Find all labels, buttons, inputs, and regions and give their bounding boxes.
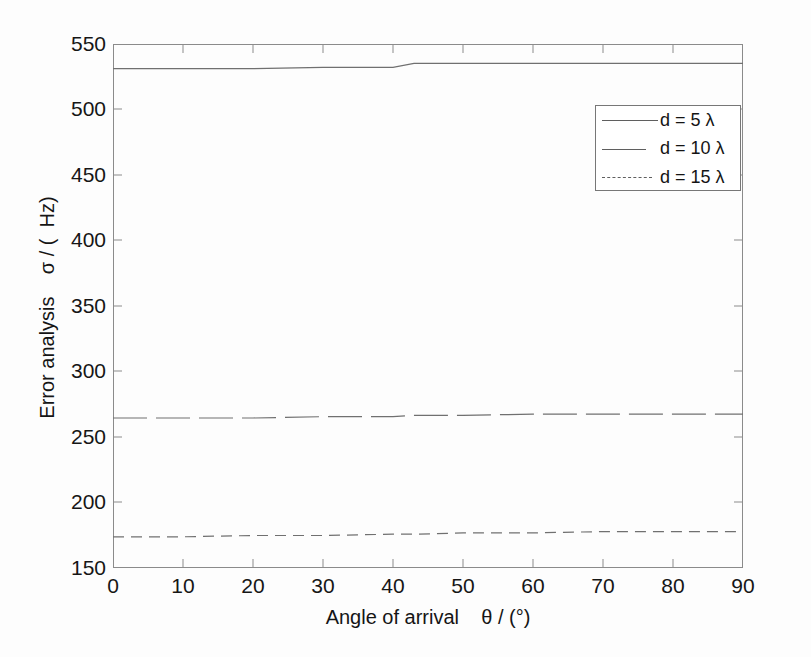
y-tick-550: 550 (40, 32, 106, 56)
x-tick-0: 0 (107, 574, 119, 598)
legend-item-0: d = 5 λ (596, 106, 740, 135)
legend-item-1: d = 10 λ (596, 135, 740, 164)
x-tick-30: 30 (311, 574, 334, 598)
chart-legend: d = 5 λ d = 10 λ d = 15 λ (595, 105, 741, 191)
legend-line-sample-solid-short (602, 142, 658, 156)
y-tick-150: 150 (40, 556, 106, 580)
legend-line-sample-dashed (602, 170, 658, 184)
legend-label-2: d = 15 λ (660, 167, 725, 188)
chart-figure: 550 500 450 400 350 300 250 200 150 0 10… (0, 0, 811, 657)
x-tick-10: 10 (171, 574, 194, 598)
x-tick-80: 80 (661, 574, 684, 598)
x-axis-title: Angle of arrival θ / (°) (113, 606, 743, 629)
x-tick-20: 20 (241, 574, 264, 598)
x-tick-70: 70 (591, 574, 614, 598)
x-tick-60: 60 (521, 574, 544, 598)
y-axis-title: Error analysis σ / ( Hz) (36, 93, 59, 523)
legend-item-2: d = 15 λ (596, 163, 740, 192)
x-tick-50: 50 (451, 574, 474, 598)
x-tick-90: 90 (731, 574, 754, 598)
legend-label-0: d = 5 λ (660, 110, 715, 131)
x-tick-40: 40 (381, 574, 404, 598)
legend-line-sample-solid (602, 113, 658, 127)
legend-label-1: d = 10 λ (660, 138, 725, 159)
